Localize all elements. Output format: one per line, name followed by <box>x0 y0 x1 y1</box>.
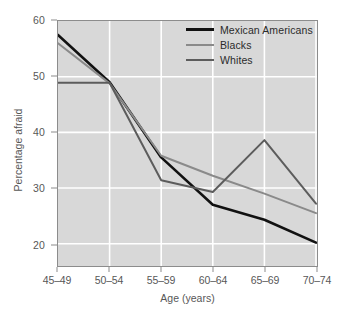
x-tick-mark <box>161 267 162 272</box>
x-tick-label: 70–74 <box>303 274 332 286</box>
y-tick-label: 50 <box>33 70 45 82</box>
y-axis-label: Percentage afraid <box>12 80 24 220</box>
x-tick-mark <box>213 267 214 272</box>
x-tick-mark <box>109 267 110 272</box>
y-tick-label: 40 <box>33 126 45 138</box>
legend-label: Mexican Americans <box>220 24 313 36</box>
chart-figure: 2030405060 Percentage afraid 45–4950–545… <box>0 0 339 318</box>
y-tick-label: 60 <box>33 14 45 26</box>
legend-line-swatch <box>186 59 214 61</box>
x-tick-label: 60–64 <box>199 274 228 286</box>
x-axis: 45–4950–5455–5960–6465–6970–74 Age (year… <box>57 267 318 317</box>
legend-item-1: Blacks <box>186 37 330 52</box>
legend-label: Whites <box>220 54 253 66</box>
series-line-2 <box>58 83 316 204</box>
x-tick-label: 65–69 <box>251 274 280 286</box>
y-tick-label: 20 <box>33 239 45 251</box>
legend-label: Blacks <box>220 39 252 51</box>
x-tick-mark <box>265 267 266 272</box>
x-tick-label: 50–54 <box>95 274 124 286</box>
x-tick-mark <box>317 267 318 272</box>
x-tick-mark <box>57 267 58 272</box>
legend-item-2: Whites <box>186 52 330 67</box>
x-tick-label: 55–59 <box>147 274 176 286</box>
legend-line-swatch <box>186 28 214 31</box>
y-axis: 2030405060 Percentage afraid <box>0 0 57 287</box>
chart-legend: Mexican Americans Blacks Whites <box>186 22 330 67</box>
legend-item-0: Mexican Americans <box>186 22 330 37</box>
x-tick-label: 45–49 <box>43 274 72 286</box>
y-tick-label: 30 <box>33 182 45 194</box>
x-axis-label: Age (years) <box>57 292 318 304</box>
legend-line-swatch <box>186 44 214 46</box>
